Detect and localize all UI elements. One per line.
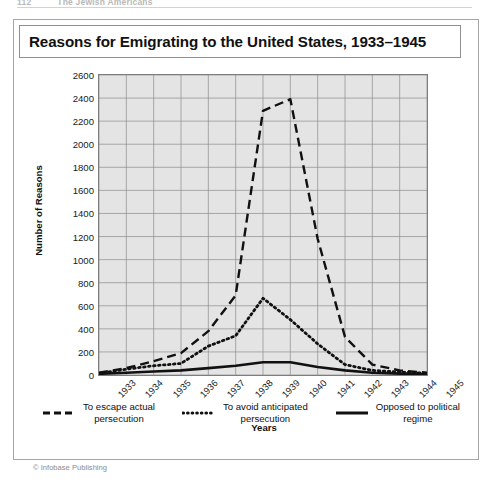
x-tick-label: 1942 xyxy=(362,378,384,400)
grid-lines xyxy=(99,75,427,375)
y-tick-label: 2400 xyxy=(48,93,94,104)
y-tick-label: 0 xyxy=(48,370,94,381)
y-tick-label: 1000 xyxy=(48,254,94,265)
x-tick-label: 1933 xyxy=(116,378,138,400)
x-tick-label: 1936 xyxy=(198,378,220,400)
chart-legend: To escape actual persecutionTo avoid ant… xyxy=(24,401,476,443)
figure-page: 112 The Jewish Americans Reasons for Emi… xyxy=(0,0,492,479)
plot-area xyxy=(98,74,428,376)
y-tick-label: 200 xyxy=(48,346,94,357)
y-axis-tick-labels: 2600240022002000180016001400120010008006… xyxy=(44,74,94,376)
x-tick-label: 1937 xyxy=(225,378,247,400)
dotted-line-icon xyxy=(182,404,216,414)
page-number: 112 xyxy=(17,0,31,7)
x-tick-label: 1935 xyxy=(171,378,193,400)
header-rule xyxy=(17,7,472,8)
legend-entry: To avoid anticipated persecution xyxy=(182,401,308,443)
running-head: 112 The Jewish Americans xyxy=(0,0,492,11)
dashed-line-icon xyxy=(42,404,76,414)
x-tick-label: 1945 xyxy=(444,378,466,400)
y-tick-label: 400 xyxy=(48,323,94,334)
chart-title: Reasons for Emigrating to the United Sta… xyxy=(20,33,426,50)
legend-label: To avoid anticipated persecution xyxy=(223,401,308,425)
x-tick-label: 1944 xyxy=(417,378,439,400)
legend-entry: Opposed to political regime xyxy=(335,401,460,443)
y-tick-label: 1600 xyxy=(48,185,94,196)
legend-label: To escape actual persecution xyxy=(83,401,155,425)
chart-plot-svg xyxy=(99,75,427,375)
y-tick-label: 2600 xyxy=(48,70,94,81)
x-tick-label: 1943 xyxy=(389,378,411,400)
y-tick-label: 800 xyxy=(48,277,94,288)
y-tick-label: 1200 xyxy=(48,231,94,242)
y-tick-label: 2000 xyxy=(48,139,94,150)
y-tick-label: 1400 xyxy=(48,208,94,219)
figure-frame: Reasons for Emigrating to the United Sta… xyxy=(13,19,479,460)
chart-region: Number of Reasons 2600240022002000180016… xyxy=(14,60,478,459)
legend-entry: To escape actual persecution xyxy=(42,401,155,443)
book-title: The Jewish Americans xyxy=(57,0,152,7)
x-tick-label: 1940 xyxy=(307,378,329,400)
legend-label: Opposed to political regime xyxy=(376,401,460,425)
solid-line-icon xyxy=(335,404,369,414)
x-tick-label: 1938 xyxy=(253,378,275,400)
y-axis-title: Number of Reasons xyxy=(33,151,44,271)
y-tick-label: 2200 xyxy=(48,116,94,127)
publisher-credit: © Infobase Publishing xyxy=(33,463,107,472)
x-tick-label: 1941 xyxy=(335,378,357,400)
x-tick-label: 1939 xyxy=(280,378,302,400)
y-tick-label: 1800 xyxy=(48,162,94,173)
y-tick-label: 600 xyxy=(48,300,94,311)
chart-title-bar: Reasons for Emigrating to the United Sta… xyxy=(19,25,461,58)
x-tick-label: 1934 xyxy=(143,378,165,400)
